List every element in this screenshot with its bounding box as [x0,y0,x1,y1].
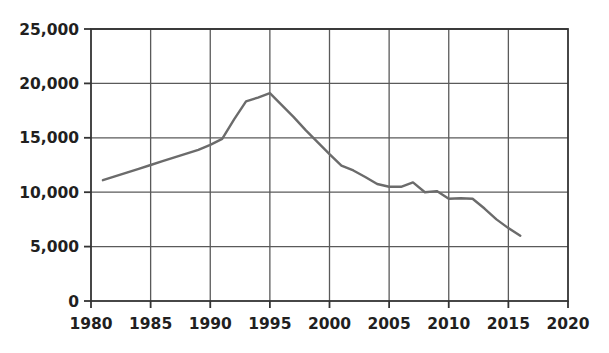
x-tick-label: 1995 [248,315,291,333]
y-tick-label: 15,000 [19,129,79,147]
x-tick-label: 1985 [129,315,172,333]
x-tick-label: 2000 [308,315,351,333]
y-axis-tick-labels: 05,00010,00015,00020,00025,000 [19,21,79,311]
x-axis-tick-labels: 198019851990199520002005201020152020 [69,315,589,333]
y-tick-label: 25,000 [19,21,79,39]
x-axis-ticks [91,301,568,308]
gridlines-vertical [151,29,509,301]
x-tick-label: 2005 [368,315,411,333]
y-axis-ticks [84,29,91,301]
x-tick-label: 1980 [69,315,112,333]
chart-canvas: 05,00010,00015,00020,00025,000 198019851… [0,0,609,353]
y-tick-label: 10,000 [19,184,79,202]
y-tick-label: 5,000 [30,238,79,256]
data-series-line [103,93,520,236]
y-tick-label: 0 [68,293,79,311]
x-tick-label: 1990 [189,315,232,333]
x-tick-label: 2015 [487,315,530,333]
line-chart: 05,00010,00015,00020,00025,000 198019851… [0,0,609,353]
x-tick-label: 2020 [546,315,589,333]
x-tick-label: 2010 [427,315,470,333]
y-tick-label: 20,000 [19,75,79,93]
series-line-1 [103,93,520,236]
